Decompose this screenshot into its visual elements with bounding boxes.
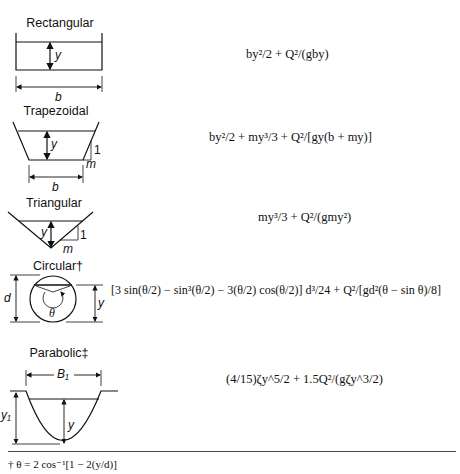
- dim-circ-d: d: [4, 291, 11, 305]
- dim-trap-y: y: [51, 137, 57, 151]
- parabolic-shape: [10, 370, 118, 444]
- dim-tri-y: y: [41, 225, 47, 239]
- dim-para-y: y: [68, 418, 74, 432]
- cross-section-drawings: [0, 0, 460, 474]
- label-triangular: Triangular: [0, 196, 114, 210]
- label-rectangular: Rectangular: [0, 16, 120, 30]
- rectangular-shape: [16, 33, 102, 92]
- formula-rectangular: by²/2 + Q²/(gby): [246, 47, 329, 62]
- circular-shape: [10, 275, 103, 322]
- dim-trap-m: m: [86, 157, 96, 171]
- dim-tri-m: m: [63, 242, 73, 256]
- dim-tri-1: 1: [80, 228, 87, 242]
- dim-para-y1: y₁: [1, 408, 11, 422]
- dim-para-b1: B₁: [57, 367, 69, 381]
- formula-triangular: my³/3 + Q²/(gmy²): [258, 210, 351, 225]
- dim-rect-y: y: [55, 48, 61, 62]
- dim-rect-b: b: [55, 90, 62, 104]
- label-circular: Circular†: [0, 259, 118, 273]
- label-parabolic: Parabolic‡: [0, 346, 119, 360]
- footnote-divider: [8, 451, 456, 452]
- label-trapezoidal: Trapezoidal: [0, 104, 116, 118]
- dim-trap-1: 1: [94, 143, 101, 157]
- formula-circular: [3 sin(θ/2) − sin³(θ/2) − 3(θ/2) cos(θ/2…: [111, 283, 441, 298]
- formula-trapezoidal: by²/2 + my³/3 + Q²/[gy(b + my)]: [209, 130, 372, 145]
- trapezoidal-shape: [13, 122, 99, 183]
- formula-parabolic: (4/15)ζy^5/2 + 1.5Q²/(gζy^3/2): [226, 372, 383, 387]
- dim-circ-theta: θ: [49, 306, 55, 321]
- footnote-theta: † θ = 2 cos⁻¹[1 − 2(y/d)]: [8, 458, 117, 471]
- dim-circ-y: y: [98, 296, 104, 310]
- dim-trap-b: b: [52, 180, 59, 194]
